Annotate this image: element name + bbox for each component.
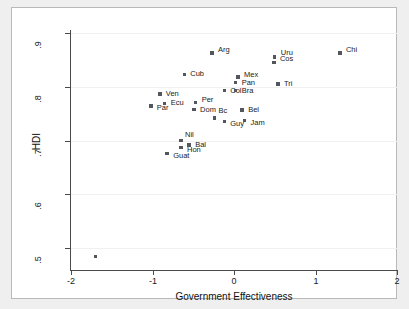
data-point-label: Bra: [242, 87, 254, 95]
data-point-label: Dom: [200, 106, 216, 114]
x-tick-label: 1: [304, 276, 328, 286]
y-tick-label: .5: [33, 248, 43, 272]
chart-figure: HDI Government Effectiveness .5.6.7.8.9 …: [0, 0, 409, 309]
y-axis-line: [70, 30, 71, 270]
data-point-label: Per: [202, 96, 214, 104]
data-point-label: Arg: [218, 46, 230, 54]
y-tick: [65, 248, 70, 249]
data-point: [240, 108, 243, 111]
data-point: [179, 146, 182, 149]
gridline: [71, 141, 397, 142]
x-tick: [397, 270, 398, 275]
data-point: [223, 89, 226, 92]
data-point-label: Par: [157, 104, 169, 112]
gridline: [71, 33, 397, 34]
data-point-label: Ven: [166, 90, 179, 98]
data-point-label: Chi: [346, 46, 357, 54]
data-point-label: Guat: [173, 152, 189, 160]
data-point: [158, 92, 161, 95]
gridline: [71, 194, 397, 195]
data-point: [194, 101, 197, 104]
data-point: [234, 89, 237, 92]
data-point: [179, 139, 182, 142]
data-point: [236, 75, 239, 78]
data-point: [272, 61, 275, 64]
data-point-label: Jam: [251, 119, 265, 127]
data-point: [243, 119, 246, 122]
x-axis-label: Government Effectiveness: [71, 291, 397, 302]
x-tick: [316, 270, 317, 275]
y-tick-label: .8: [33, 87, 43, 111]
data-point: [234, 81, 237, 84]
data-point: [213, 116, 216, 119]
y-tick: [65, 194, 70, 195]
data-point: [192, 108, 195, 111]
x-tick-label: 0: [222, 276, 246, 286]
data-point: [273, 55, 276, 58]
x-tick: [71, 270, 72, 275]
data-point: [223, 120, 226, 123]
plot-area: [71, 30, 397, 270]
data-point-label: Cub: [190, 70, 204, 78]
data-point-label: Cos: [280, 55, 293, 63]
data-point: [165, 152, 168, 155]
data-point-label: Ecu: [171, 99, 184, 107]
y-tick-label: .9: [33, 33, 43, 57]
data-point: [149, 104, 152, 107]
y-tick: [65, 33, 70, 34]
data-point: [276, 82, 279, 85]
y-tick-label: .6: [33, 194, 43, 218]
x-tick-label: -1: [141, 276, 165, 286]
y-tick-label: .7: [33, 141, 43, 165]
data-point-label: Bel: [248, 106, 259, 114]
y-tick: [65, 87, 70, 88]
data-point-label: Tri: [284, 80, 292, 88]
data-point: [183, 73, 186, 76]
x-tick-label: 2: [385, 276, 409, 286]
x-tick-label: -2: [59, 276, 83, 286]
data-point-label: Nil: [185, 131, 194, 139]
data-point: [210, 51, 213, 54]
data-point: [338, 51, 341, 54]
data-point: [94, 255, 97, 258]
x-tick: [153, 270, 154, 275]
data-point-label: Bc: [218, 107, 227, 115]
gridline: [71, 248, 397, 249]
chart-frame: HDI Government Effectiveness .5.6.7.8.9 …: [11, 7, 397, 299]
x-tick: [234, 270, 235, 275]
y-tick: [65, 141, 70, 142]
